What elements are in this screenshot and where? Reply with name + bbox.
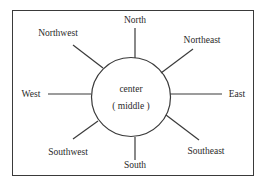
label-north: North <box>124 16 146 26</box>
label-northeast: Northeast <box>184 36 221 46</box>
northeast-line <box>161 49 193 73</box>
center-label-line2: ( middle ) <box>112 102 149 112</box>
label-south: South <box>124 161 146 171</box>
center-circle <box>92 58 171 137</box>
label-west: West <box>22 90 41 100</box>
southwest-line <box>73 121 98 139</box>
northwest-line <box>73 45 103 68</box>
southeast-line <box>166 115 199 140</box>
label-northwest: Northwest <box>38 29 78 39</box>
label-southwest: Southwest <box>48 148 88 158</box>
label-southeast: Southeast <box>188 147 225 157</box>
label-east: East <box>229 90 245 100</box>
center-label-line1: center <box>119 85 142 95</box>
